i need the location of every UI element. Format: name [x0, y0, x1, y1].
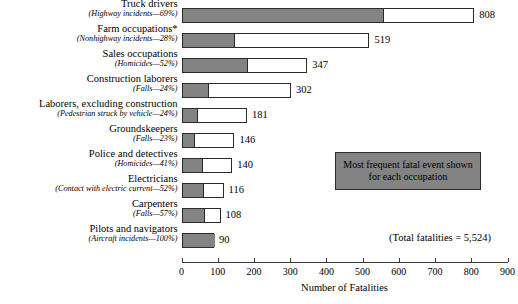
x-axis-tick [508, 258, 509, 262]
bar-value-label: 808 [479, 9, 495, 20]
x-axis-tick-label: 100 [198, 266, 238, 277]
bar-segment-most-frequent-event [183, 84, 209, 97]
bar [182, 158, 233, 173]
category-label: Farm occupations* [0, 24, 178, 35]
category-label-group: Truck drivers(Highway incidents—69%) [0, 0, 178, 18]
bar [182, 233, 215, 248]
x-axis-tick [326, 258, 327, 262]
bar-segment-most-frequent-event [183, 234, 216, 247]
category-sublabel: (Falls—57%) [0, 210, 178, 218]
bar-segment-most-frequent-event [183, 34, 236, 47]
bar [182, 208, 221, 223]
category-sublabel: (Falls—23%) [0, 135, 178, 143]
category-sublabel: (Contact with electric current—52%) [0, 185, 178, 193]
bar-segment-most-frequent-event [183, 184, 205, 197]
bar-value-label: 108 [226, 209, 242, 220]
category-label-group: Construction laborers(Falls—24%) [0, 74, 178, 93]
category-label-group: Police and detectives(Homicides—41%) [0, 149, 178, 168]
category-label-group: Sales occupations(Homicides—52%) [0, 49, 178, 68]
x-axis-tick-label: 300 [270, 266, 310, 277]
x-axis-tick-label: 600 [379, 266, 419, 277]
category-label: Groundskeepers [0, 124, 178, 135]
bar-value-label: 140 [237, 159, 253, 170]
bar-value-label: 116 [229, 184, 244, 195]
category-label-group: Electricians(Contact with electric curre… [0, 174, 178, 193]
bar-value-label: 347 [312, 59, 328, 70]
bar [182, 108, 248, 123]
x-axis-tick [218, 258, 219, 262]
x-axis-tick-label: 800 [451, 266, 491, 277]
bar-segment-most-frequent-event [183, 9, 385, 22]
bar [182, 183, 224, 198]
bar [182, 58, 308, 73]
bar [182, 8, 475, 23]
category-label: Sales occupations [0, 49, 178, 60]
bar-value-label: 519 [374, 34, 390, 45]
category-label: Police and detectives [0, 149, 178, 160]
bar [182, 83, 291, 98]
bar-segment-most-frequent-event [183, 109, 199, 122]
x-axis-tick-label: 200 [234, 266, 274, 277]
category-sublabel: (Nonhighway incidents—28%) [0, 35, 178, 43]
x-axis-tick-label: 700 [415, 266, 455, 277]
category-sublabel: (Aircraft incidents—100%) [0, 235, 178, 243]
category-label-group: Farm occupations*(Nonhighway incidents—2… [0, 24, 178, 43]
x-axis-tick-label: 0 [162, 266, 202, 277]
x-axis-line [182, 262, 508, 263]
category-label-group: Groundskeepers(Falls—23%) [0, 124, 178, 143]
bar [182, 33, 370, 48]
category-sublabel: (Homicides—52%) [0, 60, 178, 68]
bar [182, 133, 235, 148]
category-label: Carpenters [0, 199, 178, 210]
category-label-group: Carpenters(Falls—57%) [0, 199, 178, 218]
bar-value-label: 302 [296, 84, 312, 95]
x-axis-tick-label: 900 [488, 266, 518, 277]
x-axis-tick [363, 258, 364, 262]
x-axis-tick [435, 258, 436, 262]
x-axis-tick [290, 258, 291, 262]
category-sublabel: (Highway incidents—69%) [0, 10, 178, 18]
bar-segment-most-frequent-event [183, 209, 205, 222]
category-sublabel: (Pedestrian struck by vehicle—24%) [0, 110, 178, 118]
category-label: Laborers, excluding construction [0, 99, 178, 110]
category-label: Electricians [0, 174, 178, 185]
bar-segment-most-frequent-event [183, 134, 195, 147]
category-sublabel: (Falls—24%) [0, 85, 178, 93]
x-axis-label: Number of Fatalities [2, 282, 518, 293]
legend-box: Most frequent fatal event shown for each… [335, 152, 481, 190]
x-axis-tick [182, 258, 183, 262]
legend-line-2: for each occupation [369, 171, 448, 184]
category-label-group: Laborers, excluding construction(Pedestr… [0, 99, 178, 118]
total-fatalities-note: (Total fatalities = 5,524) [389, 232, 491, 243]
bar-value-label: 181 [252, 109, 268, 120]
category-label: Pilots and navigators [0, 224, 178, 235]
category-label-group: Pilots and navigators(Aircraft incidents… [0, 224, 178, 243]
x-axis-tick-label: 500 [343, 266, 383, 277]
category-label: Construction laborers [0, 74, 178, 85]
legend-line-1: Most frequent fatal event shown [343, 159, 472, 172]
bar-segment-most-frequent-event [183, 59, 248, 72]
bar-segment-most-frequent-event [183, 159, 204, 172]
x-axis-tick-label: 400 [306, 266, 346, 277]
x-axis-tick [399, 258, 400, 262]
category-sublabel: (Homicides—41%) [0, 160, 178, 168]
bar-value-label: 146 [239, 134, 255, 145]
x-axis-tick [254, 258, 255, 262]
x-axis-tick [471, 258, 472, 262]
fatal-occupational-injuries-bar-chart: Truck drivers(Highway incidents—69%)808F… [0, 0, 518, 304]
bar-value-label: 90 [219, 234, 230, 245]
